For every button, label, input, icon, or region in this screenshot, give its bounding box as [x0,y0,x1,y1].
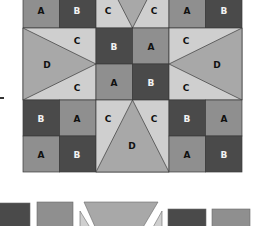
piece-c-right [152,211,162,226]
label-a: A [184,150,191,160]
label-c: C [74,83,81,93]
arrow-pointer-icon [0,97,4,99]
label-c: C [183,36,190,46]
label-c: C [151,6,158,16]
label-b: B [111,42,118,52]
label-a: A [74,114,81,124]
piece-b [168,209,206,226]
piece-a [37,202,73,226]
label-a: A [38,6,45,16]
label-d: D [128,141,135,151]
label-c: C [105,6,112,16]
label-c: C [105,114,112,124]
piece-d [84,202,158,226]
label-b: B [38,114,45,124]
label-a: A [38,150,45,160]
label-b: B [221,150,228,160]
label-c: C [183,83,190,93]
piece-a [212,209,250,226]
label-b: B [184,114,191,124]
label-d: D [213,60,220,70]
label-a: A [184,6,191,16]
label-d: D [43,60,50,70]
label-b: B [148,78,155,88]
piece-b [0,203,30,226]
label-c: C [74,36,81,46]
label-a: A [148,42,155,52]
label-b: B [221,6,228,16]
label-a: A [221,114,228,124]
pieces-row [0,202,250,226]
label-b: B [74,6,81,16]
label-b: B [74,150,81,160]
label-a: A [111,78,118,88]
label-c: C [151,114,158,124]
